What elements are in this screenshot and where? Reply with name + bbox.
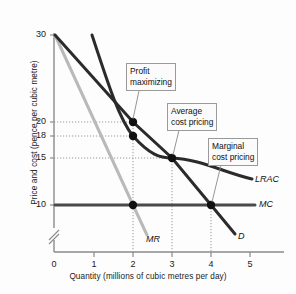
marker-profit-maximizing-mr-mc [129,201,137,209]
curve-label-mc: MC [259,199,273,209]
marker-profit-maximizing-price [129,118,137,126]
callout-marginal-cost-pricing: Marginal cost pricing [208,138,258,166]
callout-average-cost-pricing: Average cost pricing [167,103,217,131]
callout-average-cost-pricing-line1: Average [171,106,213,117]
marker-marginal-cost-pricing [207,201,215,209]
callout-marginal-cost-pricing-line2: cost pricing [212,152,254,163]
xtick-label-3: 3 [164,259,180,269]
xtick-label-4: 4 [203,259,219,269]
curve-label-lrac: LRAC [255,174,279,184]
ytick-label-18: 18 [24,130,46,140]
chart-figure: Price and cost (pence per cubic metre) Q… [0,0,296,294]
ytick-label-15: 15 [24,152,46,162]
callout-average-cost-pricing-line2: cost pricing [171,117,213,128]
ytick-label-20: 20 [24,116,46,126]
marker-average-cost-pricing [168,154,176,162]
xtick-label-2: 2 [125,259,141,269]
callout-marginal-cost-pricing-line1: Marginal [212,141,254,152]
curve-label-demand: D [238,231,245,241]
xtick-label-1: 1 [86,259,102,269]
curve-label-mr: MR [146,234,160,244]
ytick-label-10: 10 [24,199,46,209]
callout-profit-maximizing: Profit maximizing [126,63,176,91]
x-axis-title: Quantity (millions of cubic metres per d… [0,272,296,281]
marker-profit-maximizing-cost [129,132,137,140]
xtick-label-0: 0 [46,259,62,269]
ytick-label-30: 30 [24,29,46,39]
callout-profit-maximizing-line1: Profit [130,66,172,77]
callout-profit-maximizing-line2: maximizing [130,77,172,88]
xtick-label-5: 5 [242,259,258,269]
